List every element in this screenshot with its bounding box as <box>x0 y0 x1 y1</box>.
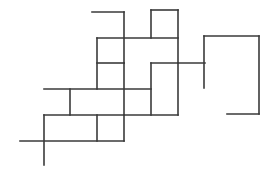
line-drawing-svg <box>0 0 269 176</box>
line-segments-group <box>20 10 259 165</box>
drawing-canvas <box>0 0 269 176</box>
